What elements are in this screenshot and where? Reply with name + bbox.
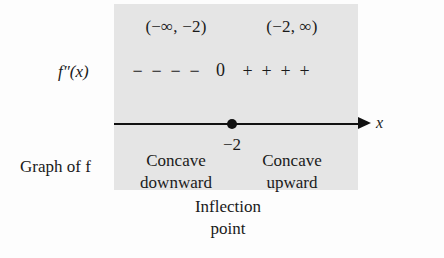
concave-downward-line2: downward — [140, 172, 212, 194]
inflection-point-caption: Inflection point — [195, 196, 261, 240]
concavity-sign-chart-figure: (−∞, −2) (−2, ∞) f″(x) − − − − 0 + + + +… — [0, 0, 444, 258]
plus-sign: + — [295, 62, 314, 80]
minus-sign: − — [185, 62, 204, 80]
graph-of-f-label: Graph of f — [20, 158, 91, 175]
sign-row: − − − − 0 + + + + — [128, 62, 340, 84]
inflection-caption-line1: Inflection — [195, 196, 261, 218]
inflection-point-dot — [227, 119, 237, 129]
concave-upward-line2: upward — [262, 172, 321, 194]
concave-downward-label: Concave downward — [140, 150, 212, 194]
concave-upward-line1: Concave — [262, 150, 321, 172]
number-line-axis — [114, 123, 362, 125]
second-derivative-label: f″(x) — [58, 63, 89, 80]
positive-signs-group: + + + + — [238, 62, 314, 80]
concave-upward-label: Concave upward — [262, 150, 321, 194]
minus-sign: − — [128, 62, 147, 80]
interval-label-left: (−∞, −2) — [145, 18, 206, 35]
negative-signs-group: − − − − — [128, 62, 204, 80]
plus-sign: + — [238, 62, 257, 80]
zero-value-label: 0 — [216, 61, 225, 79]
minus-sign: − — [147, 62, 166, 80]
inflection-caption-line2: point — [195, 218, 261, 240]
axis-arrow-icon — [358, 117, 371, 129]
minus-sign: − — [166, 62, 185, 80]
plus-sign: + — [276, 62, 295, 80]
concave-downward-line1: Concave — [140, 150, 212, 172]
interval-label-right: (−2, ∞) — [266, 18, 317, 35]
plus-sign: + — [257, 62, 276, 80]
axis-variable-label: x — [376, 115, 383, 131]
critical-value-label: −2 — [223, 136, 241, 153]
